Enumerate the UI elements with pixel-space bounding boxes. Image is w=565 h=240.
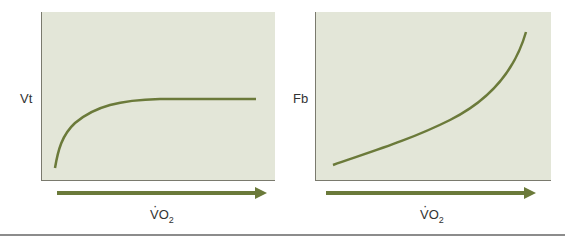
fb-y-axis-label: Fb	[293, 91, 308, 106]
vt-x-arrow-head	[255, 187, 267, 199]
fb-curve	[333, 32, 526, 165]
fb-x-arrow-head	[524, 187, 536, 199]
vt-y-axis-label: Vt	[20, 91, 32, 106]
vt-curve	[55, 99, 256, 168]
vt-chart-panel: Vt VO2	[0, 0, 280, 240]
fb-chart-panel: Fb VO2	[280, 0, 565, 240]
bottom-divider	[0, 234, 565, 236]
vt-x-axis-label: VO2	[150, 207, 174, 225]
vt-curve-svg	[0, 0, 280, 240]
fb-x-axis-label: VO2	[420, 207, 444, 225]
